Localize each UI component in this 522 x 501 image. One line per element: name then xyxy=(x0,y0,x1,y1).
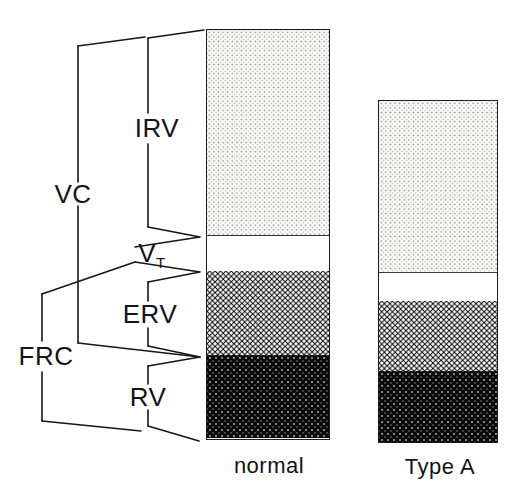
segment-irv-normal xyxy=(207,30,329,236)
vt-label: VT xyxy=(138,240,166,270)
lung-volumes-figure: VC IRV VT ERV RV FRC normal Type A xyxy=(0,0,522,501)
bar-normal xyxy=(206,29,330,440)
bar-type-a xyxy=(378,100,498,443)
segment-vt-type-a xyxy=(379,273,497,301)
category-label-normal: normal xyxy=(234,455,304,477)
erv-label: ERV xyxy=(123,301,178,327)
segment-irv-type-a xyxy=(379,101,497,273)
segment-erv-normal xyxy=(207,271,329,355)
segment-rv-normal xyxy=(207,355,329,438)
segment-vt-normal xyxy=(207,236,329,271)
vt-label-subscript: T xyxy=(156,254,166,271)
irv-label: IRV xyxy=(135,115,179,141)
vc-label: VC xyxy=(54,181,91,207)
frc-label: FRC xyxy=(19,343,74,369)
category-label-type-a: Type A xyxy=(405,456,475,478)
segment-erv-type-a xyxy=(379,301,497,371)
rv-label: RV xyxy=(130,384,167,410)
segment-rv-type-a xyxy=(379,371,497,442)
vt-label-main: V xyxy=(138,238,156,268)
